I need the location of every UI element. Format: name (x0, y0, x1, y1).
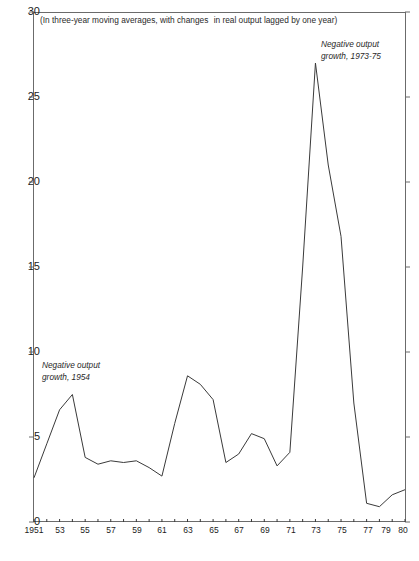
annotation-1973-line2: growth, 1973-75 (321, 50, 381, 62)
annotation-1954-line2: growth, 1954 (42, 371, 100, 383)
chart-container: 30 25 20 15 10 5 0 1951 53 55 57 59 61 6… (0, 0, 419, 561)
chart-note: (In three-year moving averages, with cha… (40, 14, 337, 27)
annotation-1973-line1: Negative output (321, 38, 381, 50)
y-axis-ticks (29, 12, 34, 522)
chart-svg (0, 0, 419, 561)
annotation-negative-output-growth-1973-75: Negative output growth, 1973-75 (321, 38, 381, 62)
y-axis-ticks-right (405, 12, 410, 522)
annotation-1954-line1: Negative output (42, 359, 100, 371)
chart-note-line2: in real output lagged by one year) (211, 15, 338, 25)
x-axis-ticks (34, 519, 405, 522)
chart-note-line1: (In three-year moving averages, with cha… (40, 15, 208, 25)
data-series-line (34, 63, 405, 507)
annotation-negative-output-growth-1954: Negative output growth, 1954 (42, 359, 100, 383)
